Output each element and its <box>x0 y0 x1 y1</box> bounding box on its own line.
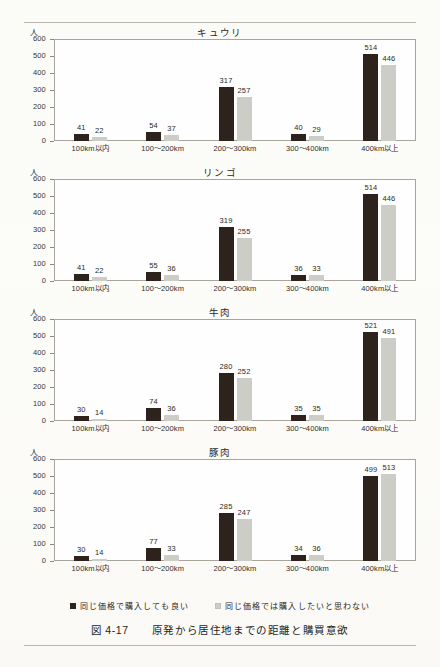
figure-page: 人キュウリ60050040030020010004122543731725740… <box>0 0 440 667</box>
bar-group: 7733 <box>126 459 198 561</box>
legend-label: 同じ価格で購入しても良い <box>80 600 189 611</box>
bar-value-label: 513 <box>382 463 395 472</box>
bar[interactable]: 255 <box>237 238 252 281</box>
y-axis-tick-label: 500 <box>33 51 46 60</box>
bar-group: 4122 <box>54 179 126 281</box>
bar-value-label: 499 <box>364 465 377 474</box>
bar[interactable]: 514 <box>363 194 378 281</box>
bar[interactable]: 37 <box>164 135 179 141</box>
y-axis: 6005004003002001000 <box>0 459 54 561</box>
x-axis: 100km以内100〜200km200〜300km300〜400km400km以… <box>54 423 416 435</box>
bar[interactable]: 319 <box>219 227 234 281</box>
bar[interactable]: 499 <box>363 476 378 561</box>
bar[interactable]: 74 <box>146 408 161 421</box>
bar[interactable]: 41 <box>74 274 89 281</box>
bar[interactable]: 446 <box>381 205 396 281</box>
bar[interactable]: 34 <box>291 555 306 561</box>
plot-area: 412255363192553633514446 <box>54 179 416 281</box>
bar-value-label: 257 <box>238 86 251 95</box>
y-axis-tick-label: 500 <box>33 331 46 340</box>
x-axis-label: 200〜300km <box>199 283 271 295</box>
legend-label: 同じ価格では購入したいと思わない <box>225 600 371 611</box>
bar[interactable]: 77 <box>146 548 161 561</box>
bar[interactable]: 14 <box>92 559 107 561</box>
bar-value-label: 33 <box>167 544 176 553</box>
bar[interactable]: 285 <box>219 513 234 561</box>
y-axis-tick-label: 400 <box>33 68 46 77</box>
y-axis: 6005004003002001000 <box>0 179 54 281</box>
bar[interactable]: 40 <box>291 134 306 141</box>
bar-group: 3633 <box>271 179 343 281</box>
bar[interactable]: 55 <box>146 272 161 281</box>
bar[interactable]: 54 <box>146 132 161 141</box>
bar[interactable]: 491 <box>381 338 396 421</box>
y-axis-tick-label: 200 <box>33 522 46 531</box>
y-axis-tick-label: 600 <box>33 174 46 183</box>
bar-group: 280252 <box>199 319 271 421</box>
bar-group: 514446 <box>344 179 416 281</box>
bar-value-label: 514 <box>364 183 377 192</box>
x-axis-label: 100km以内 <box>54 423 126 435</box>
y-axis-tick-label: 100 <box>33 399 46 408</box>
y-axis-tick-mark <box>50 141 54 142</box>
bar-value-label: 14 <box>95 408 104 417</box>
bar[interactable]: 280 <box>219 373 234 421</box>
y-axis-tick-label: 500 <box>33 191 46 200</box>
y-axis-tick-label: 100 <box>33 539 46 548</box>
bar[interactable]: 41 <box>74 134 89 141</box>
bar[interactable]: 36 <box>291 275 306 281</box>
y-axis-tick-label: 0 <box>42 556 46 565</box>
bar-value-label: 33 <box>312 264 321 273</box>
y-axis-tick-label: 300 <box>33 365 46 374</box>
y-axis-tick-label: 0 <box>42 136 46 145</box>
bar[interactable]: 35 <box>291 415 306 421</box>
bar-value-label: 54 <box>149 121 158 130</box>
y-axis-tick-label: 100 <box>33 259 46 268</box>
bar[interactable]: 446 <box>381 65 396 141</box>
bar[interactable]: 35 <box>309 415 324 421</box>
bar-value-label: 255 <box>238 227 251 236</box>
x-axis: 100km以内100〜200km200〜300km300〜400km400km以… <box>54 563 416 575</box>
bar-group: 3014 <box>54 459 126 561</box>
bar[interactable]: 29 <box>309 136 324 141</box>
x-axis-label: 400km以上 <box>344 143 416 155</box>
bar[interactable]: 30 <box>74 556 89 561</box>
figure-caption-text: 原発から居住地までの距離と購買意欲 <box>152 624 349 636</box>
bar[interactable]: 252 <box>237 378 252 421</box>
y-axis-tick-label: 400 <box>33 208 46 217</box>
legend-item: 同じ価格で購入しても良い <box>70 600 189 611</box>
bar[interactable]: 36 <box>164 275 179 281</box>
bar[interactable]: 36 <box>164 415 179 421</box>
x-axis-label: 100〜200km <box>126 283 198 295</box>
bar[interactable]: 36 <box>309 555 324 561</box>
bar[interactable]: 14 <box>92 419 107 421</box>
bar-groups: 412254373172574029514446 <box>54 39 416 141</box>
bar[interactable]: 514 <box>363 54 378 141</box>
bar[interactable]: 513 <box>381 474 396 561</box>
bar[interactable]: 30 <box>74 416 89 421</box>
bar[interactable]: 22 <box>92 277 107 281</box>
bar-group: 521491 <box>344 319 416 421</box>
bar[interactable]: 317 <box>219 87 234 141</box>
bar-value-label: 74 <box>149 397 158 406</box>
bar[interactable]: 22 <box>92 137 107 141</box>
bar[interactable]: 257 <box>237 97 252 141</box>
bar[interactable]: 33 <box>164 555 179 561</box>
page-rule-top <box>24 22 416 23</box>
legend-swatch-willing <box>70 603 76 609</box>
bar-groups: 301474362802523535521491 <box>54 319 416 421</box>
y-axis-tick-label: 600 <box>33 34 46 43</box>
bar-value-label: 446 <box>382 194 395 203</box>
bar-group: 7436 <box>126 319 198 421</box>
x-axis: 100km以内100〜200km200〜300km300〜400km400km以… <box>54 283 416 295</box>
y-axis-tick-label: 400 <box>33 488 46 497</box>
bar[interactable]: 521 <box>363 332 378 421</box>
bar-value-label: 22 <box>95 126 104 135</box>
bar-value-label: 29 <box>312 125 321 134</box>
plot-area: 301474362802523535521491 <box>54 319 416 421</box>
bar[interactable]: 247 <box>237 519 252 561</box>
bar[interactable]: 33 <box>309 275 324 281</box>
bar-value-label: 14 <box>95 548 104 557</box>
chart-1: 人キュウリ60050040030020010004122543731725740… <box>0 28 440 168</box>
bar-value-label: 446 <box>382 54 395 63</box>
